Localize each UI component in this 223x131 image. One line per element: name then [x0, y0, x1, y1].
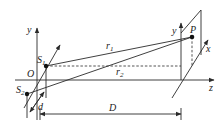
ray-r1 — [46, 37, 192, 66]
point-p — [190, 35, 195, 40]
label-d: d — [38, 101, 44, 112]
label-x: x — [205, 43, 211, 54]
label-origin: O — [27, 68, 34, 79]
interference-diagram: y O S1 S2 d r1 r2 y P x z D — [0, 0, 223, 131]
label-y-left: y — [26, 24, 32, 35]
label-r2: r2 — [116, 66, 124, 79]
point-s2 — [25, 92, 29, 96]
label-y-right: y — [171, 25, 177, 36]
screen-left-edge — [172, 40, 208, 98]
label-z: z — [208, 82, 213, 93]
label-s1: S1 — [37, 54, 46, 67]
label-D: D — [108, 102, 117, 113]
label-r1: r1 — [106, 40, 113, 53]
label-s2: S2 — [16, 84, 25, 97]
label-p: P — [189, 24, 196, 35]
